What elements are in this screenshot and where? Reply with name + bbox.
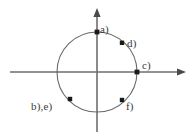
point-c-marker <box>135 70 140 75</box>
point-be-marker <box>68 97 72 101</box>
horizontal-axis-arrowhead <box>177 68 186 75</box>
point-d-marker <box>120 41 124 45</box>
unit-circle-diagram: a) d) c) f) b),e) <box>0 0 194 138</box>
point-label-a: a) <box>100 24 109 35</box>
point-label-be: b),e) <box>31 101 52 112</box>
diagram-canvas <box>0 0 194 138</box>
point-label-c: c) <box>142 60 151 71</box>
point-a-marker <box>95 30 100 35</box>
point-label-f: f) <box>126 101 134 112</box>
vertical-axis-arrowhead <box>93 8 100 17</box>
point-label-d: d) <box>127 38 137 49</box>
point-f-marker <box>120 98 124 102</box>
